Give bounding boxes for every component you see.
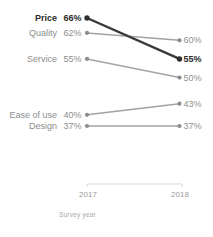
data-point-service-2018 xyxy=(177,75,181,79)
value-label-ease-of-use-2018: 43% xyxy=(184,99,202,109)
data-point-design-2017 xyxy=(85,124,89,128)
series-label-design: Design xyxy=(29,121,57,131)
data-point-design-2018 xyxy=(177,124,181,128)
data-point-price-2017 xyxy=(84,15,89,20)
value-label-design-2018: 37% xyxy=(184,121,202,131)
value-label-quality-2018: 60% xyxy=(184,35,202,45)
value-label-quality-2017: 62% xyxy=(63,28,81,38)
slope-chart: Quality62%60%Service55%50%Ease of use40%… xyxy=(0,0,213,237)
data-point-quality-2018 xyxy=(177,38,181,42)
value-label-ease-of-use-2017: 40% xyxy=(63,110,81,120)
data-point-ease-of-use-2018 xyxy=(177,102,181,106)
value-label-service-2017: 55% xyxy=(63,54,81,64)
series-label-service: Service xyxy=(27,54,57,64)
x-tick-label-2018: 2018 xyxy=(160,190,200,199)
x-axis-title: Survey year xyxy=(59,211,96,218)
data-point-quality-2017 xyxy=(85,31,89,35)
slope-chart-canvas: Quality62%60%Service55%50%Ease of use40%… xyxy=(0,0,213,237)
series-label-ease-of-use: Ease of use xyxy=(9,110,57,120)
series-line-ease-of-use xyxy=(87,104,180,115)
data-point-service-2017 xyxy=(85,57,89,61)
value-label-price-2017: 66% xyxy=(63,13,81,23)
data-point-price-2018 xyxy=(177,56,182,61)
series-label-quality: Quality xyxy=(29,28,58,38)
series-line-service xyxy=(87,59,180,78)
value-label-design-2017: 37% xyxy=(63,121,81,131)
series-label-price: Price xyxy=(35,13,57,23)
data-point-ease-of-use-2017 xyxy=(85,113,89,117)
value-label-service-2018: 50% xyxy=(184,73,202,83)
value-label-price-2018: 55% xyxy=(184,54,202,64)
x-tick-label-2017: 2017 xyxy=(68,190,108,199)
